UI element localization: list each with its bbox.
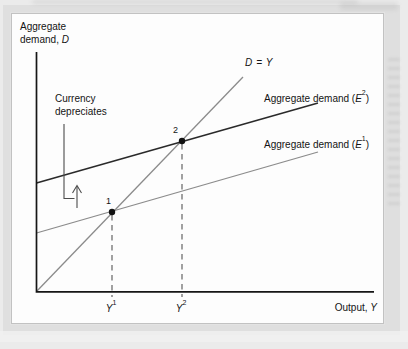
- aggregate-demand-e2-label: Aggregate demand (E2): [264, 90, 369, 105]
- x-axis-title: Output, Y: [335, 302, 377, 314]
- d-equals-y-label: D = Y: [245, 57, 273, 69]
- y1-superscript: 1: [112, 299, 116, 306]
- y-axis-title-line2: demand, D: [20, 34, 69, 47]
- ad1-variable: E: [355, 139, 362, 150]
- x-axis-variable: Y: [370, 302, 377, 313]
- y-axis-title-line1: Aggregate: [20, 21, 69, 34]
- line-aggregate-demand-e1: [37, 152, 319, 233]
- ad1-label-text: Aggregate demand (: [264, 139, 355, 150]
- axes: [37, 52, 375, 292]
- point-2-label: 2: [173, 124, 178, 136]
- x-tick-y2: Y2: [174, 300, 188, 315]
- diagram-canvas: [0, 0, 408, 349]
- annotation-leader-line: [64, 124, 75, 199]
- y-axis-title: Aggregate demand, D: [20, 21, 69, 46]
- currency-depreciates-annotation: Currency depreciates: [55, 92, 107, 118]
- ad1-label-suffix: ): [366, 139, 369, 150]
- ad2-label-suffix: ): [366, 93, 369, 104]
- currency-annotation-line1: Currency: [55, 92, 107, 105]
- x-tick-y1: Y1: [104, 300, 118, 315]
- y-axis-title-text: demand,: [20, 34, 62, 45]
- ad2-label-text: Aggregate demand (: [264, 93, 355, 104]
- currency-annotation-line2: depreciates: [55, 105, 107, 118]
- ad2-superscript: 2: [362, 89, 366, 96]
- x-axis-title-text: Output,: [335, 302, 371, 313]
- equilibrium-point-1: [109, 209, 115, 215]
- y-axis-variable: D: [62, 34, 69, 45]
- point-1-label: 1: [106, 195, 111, 207]
- figure-stage: Aggregate demand, D D = Y Aggregate dema…: [0, 0, 408, 349]
- y2-superscript: 2: [182, 299, 186, 306]
- aggregate-demand-e1-label: Aggregate demand (E1): [264, 136, 369, 151]
- equilibrium-point-2: [179, 138, 185, 144]
- ad2-variable: E: [355, 93, 362, 104]
- ad1-superscript: 1: [362, 135, 366, 142]
